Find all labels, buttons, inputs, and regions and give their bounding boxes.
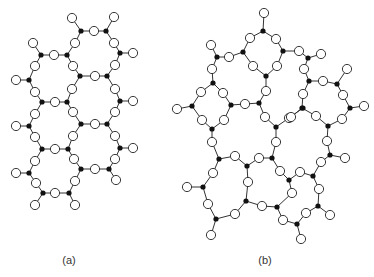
oxygen-atom-open-circle	[30, 132, 39, 141]
network-atom-filled-dot	[64, 52, 69, 57]
oxygen-atom-open-circle	[260, 112, 269, 121]
network-atom-filled-dot	[104, 73, 109, 78]
network-atom-filled-dot	[26, 170, 31, 175]
network-atom-filled-dot	[38, 52, 43, 57]
network-atom-filled-dot	[65, 146, 70, 151]
oxygen-atom-open-circle	[110, 131, 119, 140]
oxygen-atom-open-circle	[110, 60, 119, 69]
oxygen-atom-open-circle	[11, 75, 20, 84]
oxygen-atom-open-circle	[299, 64, 308, 73]
oxygen-atom-open-circle	[196, 87, 205, 96]
oxygen-atom-open-circle	[311, 111, 320, 120]
oxygen-atom-open-circle	[286, 112, 295, 121]
oxygen-atom-open-circle	[207, 137, 216, 146]
oxygen-atom-open-circle	[240, 99, 249, 108]
oxygen-atom-open-circle	[30, 200, 39, 209]
network-atom-filled-dot	[39, 146, 44, 151]
panel-b-amorphous-network	[172, 8, 368, 243]
network-atom-filled-dot	[26, 123, 31, 128]
panel-a-label: (a)	[62, 254, 75, 266]
oxygen-atom-open-circle	[68, 131, 77, 140]
oxygen-atom-open-circle	[89, 26, 98, 35]
oxygen-atom-open-circle	[325, 210, 334, 219]
network-atom-filled-dot	[300, 105, 305, 110]
oxygen-atom-open-circle	[230, 151, 239, 160]
oxygen-atom-open-circle	[28, 38, 37, 47]
network-atom-filled-dot	[40, 190, 45, 195]
oxygen-atom-open-circle	[287, 188, 296, 197]
oxygen-atom-open-circle	[90, 119, 99, 128]
oxygen-atom-open-circle	[11, 121, 20, 130]
oxygen-atom-open-circle	[316, 157, 325, 166]
oxygen-atom-open-circle	[128, 96, 137, 105]
network-atom-filled-dot	[117, 50, 122, 55]
oxygen-atom-open-circle	[197, 115, 206, 124]
oxygen-atom-open-circle	[301, 208, 310, 217]
oxygen-atom-open-circle	[337, 114, 346, 123]
oxygen-atom-open-circle	[224, 52, 233, 61]
oxygen-atom-open-circle	[90, 71, 99, 80]
oxygen-atom-open-circle	[275, 166, 284, 175]
oxygen-atom-open-circle	[338, 90, 347, 99]
oxygen-atom-open-circle	[68, 61, 77, 70]
network-atom-filled-dot	[103, 28, 108, 33]
oxygen-atom-open-circle	[298, 89, 307, 98]
network-atom-filled-dot	[66, 190, 71, 195]
network-atom-filled-dot	[274, 204, 279, 209]
network-atom-filled-dot	[210, 80, 215, 85]
oxygen-atom-open-circle	[50, 188, 59, 197]
oxygen-atom-open-circle	[67, 84, 76, 93]
oxygen-atom-open-circle	[11, 168, 20, 177]
network-atom-filled-dot	[117, 145, 122, 150]
network-atom-filled-dot	[263, 73, 268, 78]
oxygen-atom-open-circle	[172, 104, 181, 113]
oxygen-atom-open-circle	[110, 84, 119, 93]
oxygen-atom-open-circle	[294, 46, 303, 55]
network-atom-filled-dot	[243, 198, 248, 203]
oxygen-atom-open-circle	[271, 34, 280, 43]
oxygen-atom-open-circle	[111, 175, 120, 184]
network-atom-filled-dot	[273, 124, 278, 129]
oxygen-atom-open-circle	[243, 177, 252, 186]
oxygen-atom-open-circle	[295, 167, 304, 176]
oxygen-atom-open-circle	[206, 40, 215, 49]
network-atom-filled-dot	[64, 99, 69, 104]
oxygen-atom-open-circle	[128, 48, 137, 57]
network-atom-filled-dot	[244, 163, 249, 168]
oxygen-atom-open-circle	[219, 115, 228, 124]
oxygen-atom-open-circle	[109, 38, 118, 47]
network-atom-filled-dot	[280, 48, 285, 53]
network-atom-filled-dot	[286, 177, 291, 182]
oxygen-atom-open-circle	[50, 97, 59, 106]
oxygen-atom-open-circle	[314, 184, 323, 193]
network-atom-filled-dot	[216, 156, 221, 161]
oxygen-atom-open-circle	[70, 200, 79, 209]
network-atom-filled-dot	[260, 28, 265, 33]
oxygen-atom-open-circle	[67, 13, 76, 22]
network-atom-filled-dot	[310, 173, 315, 178]
panel-b-atoms	[172, 8, 368, 243]
network-atom-filled-dot	[78, 166, 83, 171]
oxygen-atom-open-circle	[272, 61, 281, 70]
network-atom-filled-dot	[209, 126, 214, 131]
oxygen-atom-open-circle	[70, 38, 79, 47]
network-atom-filled-dot	[200, 184, 205, 189]
oxygen-atom-open-circle	[182, 182, 191, 191]
oxygen-atom-open-circle	[316, 49, 325, 58]
network-atom-filled-dot	[214, 54, 219, 59]
oxygen-atom-open-circle	[109, 12, 118, 21]
network-atom-filled-dot	[269, 155, 274, 160]
network-atom-filled-dot	[39, 99, 44, 104]
oxygen-atom-open-circle	[296, 234, 305, 243]
oxygen-atom-open-circle	[30, 87, 39, 96]
network-atom-filled-dot	[228, 102, 233, 107]
oxygen-atom-open-circle	[230, 209, 239, 218]
network-atom-filled-dot	[240, 49, 245, 54]
oxygen-atom-open-circle	[203, 199, 212, 208]
network-atom-filled-dot	[106, 166, 111, 171]
network-atom-filled-dot	[315, 203, 320, 208]
oxygen-atom-open-circle	[90, 164, 99, 173]
network-atom-filled-dot	[78, 28, 83, 33]
panel-a-crystalline-network	[11, 12, 137, 209]
network-atom-filled-dot	[334, 81, 339, 86]
